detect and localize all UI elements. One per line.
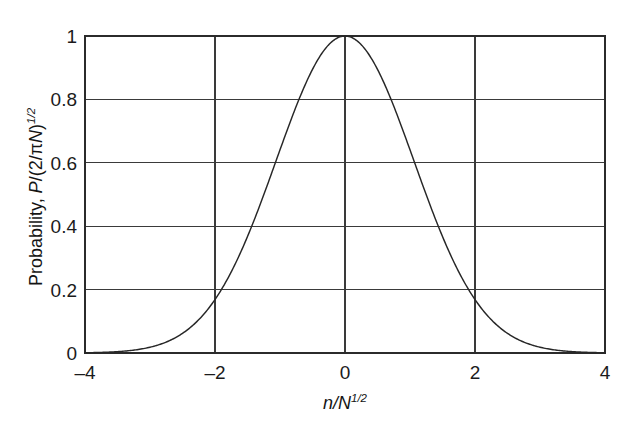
x-tick-label-0: 0 bbox=[340, 362, 351, 383]
x-axis-title-var1: n bbox=[323, 393, 333, 413]
y-tick-label-0.6: 0.6 bbox=[51, 153, 77, 174]
y-axis-title: Probability, P/(2/πN)1/2 bbox=[25, 107, 46, 286]
x-tick-label-2: 2 bbox=[470, 362, 481, 383]
x-tick-label-4: 4 bbox=[600, 362, 611, 383]
y-axis-title-lead: Probability, bbox=[26, 193, 46, 286]
x-axis-title-var2: N bbox=[338, 393, 352, 413]
y-axis-title-exponent: 1/2 bbox=[25, 107, 37, 124]
y-axis-title-var2: N bbox=[26, 129, 46, 143]
y-tick-label-1: 1 bbox=[66, 26, 77, 47]
x-tick-label--2: –2 bbox=[204, 362, 225, 383]
y-axis-title-mid: /(2/π bbox=[26, 143, 46, 181]
y-tick-label-0.4: 0.4 bbox=[51, 216, 78, 237]
y-axis-title-var1: P bbox=[26, 181, 46, 193]
x-axis-title-exponent: 1/2 bbox=[351, 392, 368, 404]
y-tick-label-0: 0 bbox=[66, 343, 77, 364]
probability-distribution-chart: 1 0.8 0.6 0.4 0.2 0 –4 –2 0 2 4 n/N1/2 P… bbox=[0, 0, 644, 425]
y-tick-label-0.2: 0.2 bbox=[51, 280, 77, 301]
x-tick-label--4: –4 bbox=[74, 362, 96, 383]
y-tick-label-0.8: 0.8 bbox=[51, 89, 77, 110]
chart-background bbox=[0, 0, 644, 425]
